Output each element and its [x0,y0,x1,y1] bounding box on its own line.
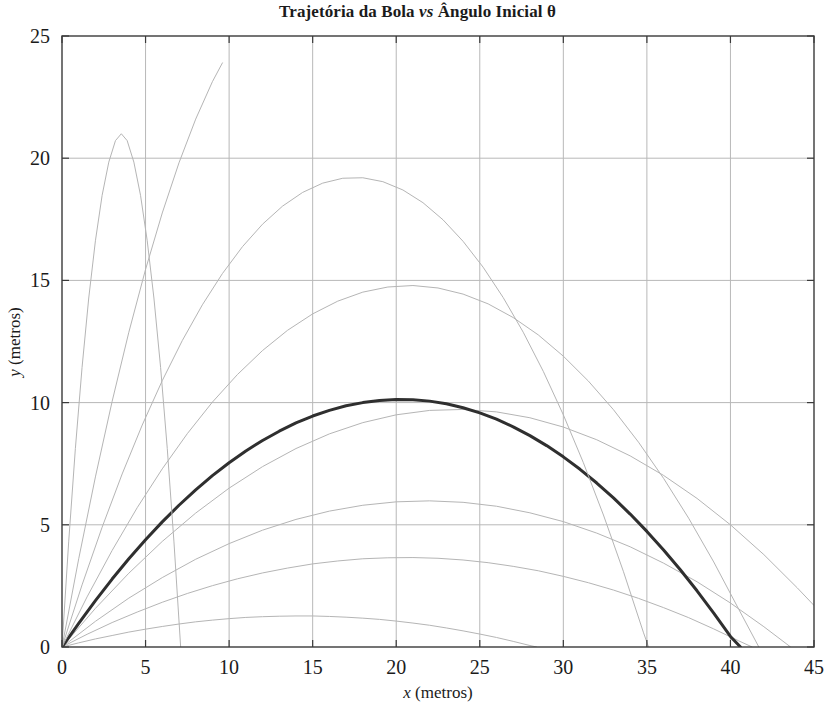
trajectory-curve [62,616,537,647]
trajectory-curve [62,409,814,647]
y-tick-label: 0 [40,636,50,658]
x-tick-label: 45 [804,656,824,678]
x-tick-label: 20 [386,656,406,678]
x-tick-label: 10 [219,656,239,678]
x-tick-label: 15 [303,656,323,678]
y-tick-label: 15 [30,269,50,291]
y-tick-label: 20 [30,147,50,169]
y-axis-title: y (metros) [5,307,24,378]
figure-container: Trajetória da Bola vs Ângulo Inicial θ 0… [0,0,835,713]
x-tick-label: 5 [141,656,151,678]
trajectory-curves [62,63,814,647]
y-axis-unit: (metros) [5,307,24,369]
y-tick-label: 10 [30,392,50,414]
axis-tick-labels: 0510152025303540450510152025 [30,25,824,678]
trajectory-curve [62,286,759,647]
x-tick-label: 30 [553,656,573,678]
y-axis-symbol: y [5,369,24,379]
trajectory-plot: 0510152025303540450510152025 x (metros) … [0,0,835,713]
trajectory-curve-highlighted [62,399,740,647]
x-tick-label: 40 [720,656,740,678]
y-tick-label: 25 [30,25,50,47]
x-tick-label: 25 [470,656,490,678]
x-tick-label: 0 [57,656,67,678]
x-tick-label: 35 [637,656,657,678]
trajectory-curve [62,178,649,647]
y-tick-label: 5 [40,514,50,536]
caption-strip [0,699,835,713]
trajectory-curve [62,63,222,647]
trajectory-curve [62,558,752,647]
